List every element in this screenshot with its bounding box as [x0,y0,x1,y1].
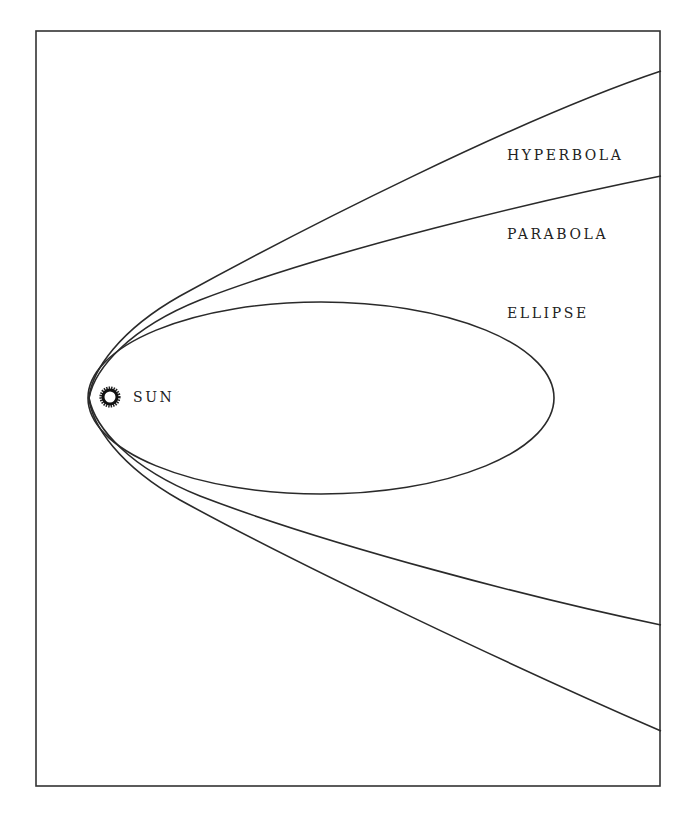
sun-label: SUN [133,389,174,405]
sun-icon [101,388,119,406]
parabola-curve [89,176,661,625]
ellipse-label: ELLIPSE [507,305,589,321]
orbit-diagram: SUN HYPERBOLA PARABOLA ELLIPSE [0,0,693,818]
hyperbola-curve [89,71,661,731]
parabola-label: PARABOLA [507,226,608,242]
hyperbola-label: HYPERBOLA [507,147,623,163]
diagram-frame [36,31,660,786]
